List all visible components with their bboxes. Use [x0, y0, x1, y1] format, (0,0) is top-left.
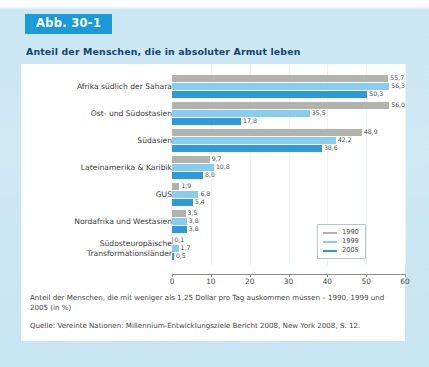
bar-2005[interactable] — [172, 91, 367, 98]
legend-item[interactable]: 2005 — [323, 246, 359, 255]
bar-line: 0,1 — [172, 237, 405, 244]
bar-line: 6,8 — [172, 191, 405, 198]
figure-caption: Anteil der Menschen, die mit weniger als… — [30, 293, 398, 314]
bar-value-label: 6,8 — [200, 191, 210, 197]
bar-1999[interactable] — [172, 164, 214, 171]
bar-2005[interactable] — [172, 199, 193, 206]
bar-1999[interactable] — [172, 83, 389, 90]
bar-2005[interactable] — [172, 118, 241, 125]
bar-line: 48,9 — [172, 129, 405, 136]
bar-value-label: 8,0 — [205, 172, 215, 178]
bar-line: 56,0 — [172, 102, 405, 109]
bar-value-label: 10,8 — [216, 164, 230, 170]
bar-value-label: 0,5 — [176, 253, 186, 259]
bar-value-label: 35,5 — [312, 110, 326, 116]
bar-1999[interactable] — [172, 191, 198, 198]
x-axis-tick-label: 30 — [284, 278, 293, 285]
bar-value-label: 50,3 — [369, 91, 383, 97]
bar-1990[interactable] — [172, 102, 389, 109]
category-bar-group: 48,942,238,6 — [172, 127, 405, 154]
legend-label: 1990 — [342, 229, 359, 236]
bar-value-label: 9,7 — [212, 156, 222, 162]
bar-line: 42,2 — [172, 137, 405, 144]
bar-line: 8,0 — [172, 172, 405, 179]
category-bar-group: 9,710,88,0 — [172, 154, 405, 181]
bar-line: 3,8 — [172, 218, 405, 225]
bar-value-label: 17,8 — [243, 118, 257, 124]
chart-gridline — [405, 64, 406, 265]
bar-2005[interactable] — [172, 253, 174, 260]
legend-item[interactable]: 1990 — [323, 228, 359, 237]
chart-category-row: Südasien48,942,238,6 — [21, 127, 405, 154]
figure-container: Abb. 30-1 Anteil der Menschen, die in ab… — [0, 0, 429, 367]
category-label: Afrika südlich der Sahara — [32, 73, 172, 100]
bar-value-label: 3,5 — [188, 210, 198, 216]
x-axis-tick-label: 20 — [245, 278, 254, 285]
bar-1990[interactable] — [172, 183, 179, 190]
figure-headline: Anteil der Menschen, die in absoluter Ar… — [26, 46, 301, 57]
figure-number-badge: Abb. 30-1 — [25, 14, 112, 34]
bar-line: 10,8 — [172, 164, 405, 171]
bar-line: 55,7 — [172, 75, 405, 82]
bar-line: 35,5 — [172, 110, 405, 117]
legend-swatch-1990 — [323, 232, 337, 234]
chart-category-row: Ost- und Südostasien56,035,517,8 — [21, 100, 405, 127]
bar-value-label: 5,4 — [195, 199, 205, 205]
x-axis-tick-label: 50 — [361, 278, 370, 285]
bar-2005[interactable] — [172, 226, 187, 233]
chart-legend: 199019992005 — [317, 224, 366, 259]
bar-line: 1,7 — [172, 245, 405, 252]
category-bar-group: 3,53,83,8 — [172, 208, 405, 235]
x-axis-tick-label: 60 — [400, 278, 409, 285]
chart-category-row: Afrika südlich der Sahara55,756,350,3 — [21, 73, 405, 100]
legend-item[interactable]: 1999 — [323, 237, 359, 246]
bar-value-label: 56,3 — [391, 83, 405, 89]
category-bar-group: 0,11,70,5 — [172, 235, 405, 262]
bar-value-label: 0,1 — [174, 237, 184, 243]
bar-1990[interactable] — [172, 75, 388, 82]
bar-1999[interactable] — [172, 137, 336, 144]
category-bar-group: 56,035,517,8 — [172, 100, 405, 127]
category-label: Südosteuropäische Transformationsländer — [32, 235, 172, 262]
category-label: Lateinamerika & Karibik — [32, 154, 172, 181]
category-bar-group: 1,96,85,4 — [172, 181, 405, 208]
chart-panel: Afrika südlich der Sahara55,756,350,3Ost… — [21, 64, 405, 341]
bar-1990[interactable] — [172, 210, 186, 217]
bar-line: 56,3 — [172, 83, 405, 90]
legend-label: 1999 — [342, 238, 359, 245]
category-bar-group: 55,756,350,3 — [172, 73, 405, 100]
chart-category-row: GUS1,96,85,4 — [21, 181, 405, 208]
bar-1990[interactable] — [172, 156, 210, 163]
category-label: GUS — [32, 181, 172, 208]
bar-2005[interactable] — [172, 172, 203, 179]
bar-line: 1,9 — [172, 183, 405, 190]
category-label: Ost- und Südostasien — [32, 100, 172, 127]
bar-line: 17,8 — [172, 118, 405, 125]
legend-label: 2005 — [342, 247, 359, 254]
bar-1999[interactable] — [172, 245, 179, 252]
bar-line: 38,6 — [172, 145, 405, 152]
bar-value-label: 38,6 — [324, 145, 338, 151]
x-axis-tick-label: 40 — [323, 278, 332, 285]
bar-line: 50,3 — [172, 91, 405, 98]
chart-category-row: Lateinamerika & Karibik9,710,88,0 — [21, 154, 405, 181]
x-axis-tick-label: 0 — [170, 278, 175, 285]
bar-value-label: 56,0 — [391, 102, 405, 108]
bar-line: 5,4 — [172, 199, 405, 206]
bar-1990[interactable] — [172, 129, 362, 136]
category-label: Südasien — [32, 127, 172, 154]
bar-value-label: 1,9 — [181, 183, 191, 189]
bar-value-label: 48,9 — [364, 129, 378, 135]
figure-source: Quelle: Vereinte Nationen: Millennium-En… — [30, 321, 398, 331]
bar-1999[interactable] — [172, 218, 187, 225]
legend-swatch-2005 — [323, 250, 337, 252]
bar-value-label: 42,2 — [338, 137, 352, 143]
legend-swatch-1999 — [323, 241, 337, 243]
bar-value-label: 1,7 — [181, 245, 191, 251]
bar-1999[interactable] — [172, 110, 310, 117]
x-axis-tick-label: 10 — [206, 278, 215, 285]
bar-2005[interactable] — [172, 145, 322, 152]
bar-value-label: 55,7 — [390, 75, 404, 81]
bar-line: 3,5 — [172, 210, 405, 217]
bar-line: 3,8 — [172, 226, 405, 233]
